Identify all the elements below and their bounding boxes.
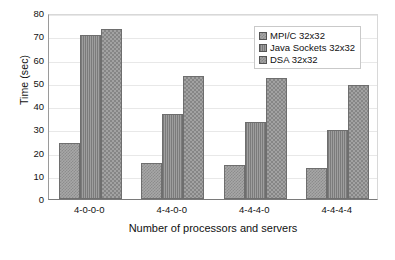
- bar: [245, 122, 266, 199]
- legend-swatch-icon: [259, 56, 267, 64]
- y-axis-tick-label: 50: [33, 79, 44, 89]
- bar-group: [141, 15, 204, 199]
- bar: [224, 165, 245, 199]
- y-axis-tick-label: 60: [33, 56, 44, 66]
- legend-label: Java Sockets 32x32: [270, 43, 355, 53]
- x-axis-tick-labels: 4-0-0-04-4-0-04-4-4-04-4-4-4: [48, 204, 378, 218]
- bar: [348, 85, 369, 199]
- bar: [80, 35, 101, 199]
- bar: [183, 76, 204, 199]
- legend-item: MPI/C 32x32: [259, 30, 355, 41]
- y-axis-tick-label: 30: [33, 126, 44, 136]
- y-axis-tick-label: 40: [33, 102, 44, 112]
- bar-group: [59, 15, 122, 199]
- bar: [162, 114, 183, 199]
- bar: [327, 130, 348, 199]
- bar: [306, 168, 327, 199]
- bar: [266, 78, 287, 199]
- y-axis-tick-labels: 01020304050607080: [18, 14, 44, 200]
- y-axis-tick-label: 10: [33, 172, 44, 182]
- x-axis-tick-label: 4-0-0-0: [74, 204, 105, 215]
- y-axis-tick-label: 20: [33, 149, 44, 159]
- legend-label: DSA 32x32: [270, 55, 318, 65]
- y-axis-tick-label: 80: [33, 9, 44, 19]
- x-axis-tick-label: 4-4-4-0: [239, 204, 270, 215]
- y-axis-tick-label: 0: [39, 195, 44, 205]
- legend-swatch-icon: [259, 32, 267, 40]
- bar-chart-figure: Time (sec) 01020304050607080 4-0-0-04-4-…: [0, 0, 395, 260]
- bar: [141, 163, 162, 199]
- bar: [59, 143, 80, 199]
- x-axis-tick-label: 4-4-4-4: [321, 204, 352, 215]
- legend-label: MPI/C 32x32: [270, 31, 325, 41]
- x-axis-tick-label: 4-4-0-0: [156, 204, 187, 215]
- legend-item: DSA 32x32: [259, 54, 355, 65]
- legend-item: Java Sockets 32x32: [259, 42, 355, 53]
- chart-legend: MPI/C 32x32Java Sockets 32x32DSA 32x32: [254, 26, 361, 69]
- y-axis-tick-label: 70: [33, 33, 44, 43]
- legend-swatch-icon: [259, 44, 267, 52]
- bar: [101, 29, 122, 199]
- x-axis-title: Number of processors and servers: [48, 222, 378, 234]
